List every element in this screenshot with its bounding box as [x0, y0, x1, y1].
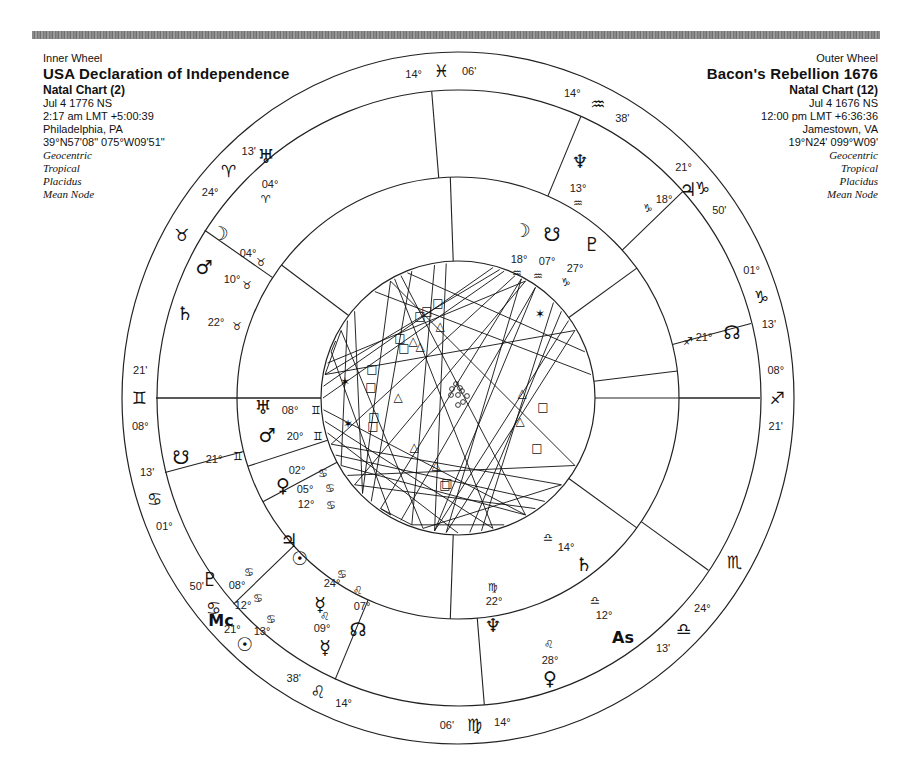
aspect-symbol-icon: ✶ — [340, 375, 350, 389]
planet-sign-icon: ♈ — [261, 193, 271, 206]
aspect-symbol-icon: □ — [414, 309, 425, 323]
aspect-line — [324, 410, 526, 515]
aspect-line — [355, 311, 363, 493]
aspect-line — [341, 331, 423, 529]
planet-degree: 12° — [235, 599, 252, 611]
aspect-symbol-icon: □ — [537, 400, 548, 414]
aspect-symbol-icon: △ — [393, 390, 403, 404]
planet-sign-icon: ♌ — [353, 584, 363, 597]
inner-planet-mars: ♂20°♊ — [258, 424, 322, 446]
house-cusp-line — [641, 522, 708, 571]
aspect-line — [325, 331, 341, 375]
planet-sign-icon: ♎ — [543, 531, 553, 544]
planet-icon: ♆ — [484, 614, 501, 636]
outer-planet-moon: ☽04°♉ — [211, 222, 265, 269]
zodiac-sign-icon: ♒ — [590, 94, 605, 114]
house-cusp-line — [622, 192, 682, 250]
aspect-line — [355, 281, 526, 485]
planet-degree: 07° — [354, 600, 371, 612]
outer-planet-saturn: ♄14°♎ — [543, 531, 592, 575]
planet-sign-icon: ♊ — [313, 430, 323, 443]
zodiac-sign-icon: ♑ — [754, 287, 769, 307]
planet-icon: ♅ — [257, 145, 274, 167]
cusp-degree: 08° — [132, 420, 149, 432]
inner-planet-sun: ☉12°♋ — [291, 498, 335, 569]
planet-degree: 09° — [314, 622, 331, 634]
planet-sign-icon: ♎ — [590, 594, 600, 607]
planet-icon: ♀ — [543, 667, 557, 689]
conjunction-icon — [456, 403, 461, 408]
aspect-symbol-icon: △ — [515, 414, 525, 428]
planet-icon: ♃ — [280, 529, 297, 551]
zodiac-sign-icon: ♍ — [467, 715, 482, 735]
outer-planet-mars: ♂10°♉ — [195, 256, 251, 292]
planet-icon: ♂ — [258, 424, 275, 446]
planet-sign-icon: ♋ — [325, 482, 335, 495]
zodiac-sign-icon: ♐ — [769, 388, 784, 408]
outer-planet-pluto: ♇08°♋ — [201, 566, 253, 591]
planet-icon: ☽ — [513, 219, 530, 241]
cusp-degree: 24° — [694, 602, 711, 614]
cusp-minute: 50' — [712, 204, 726, 216]
outer-planet-ascendant: As12°♎ — [590, 594, 634, 647]
cusp-degree: 14° — [564, 87, 581, 99]
aspect-symbol-icon: △ — [435, 319, 445, 333]
conjunction-icon — [461, 400, 466, 405]
aspect-line — [381, 509, 412, 525]
zodiac-sign-icon: ♈ — [221, 161, 236, 181]
inner-planet-south-node: ☋07°♒ — [533, 223, 560, 283]
conjunction-icon — [456, 393, 461, 398]
planet-sign-icon: ♋ — [337, 568, 347, 581]
planet-degree: 13° — [254, 625, 271, 637]
bi-wheel-chart: □□□□□□□□□□□□□△△△△△△△△✶✶✶ ♓14°06'♒14°38'♑… — [0, 0, 916, 771]
planet-sign-icon: ♋ — [253, 592, 263, 605]
house-cusp-line — [282, 265, 349, 316]
planet-sign-icon: ♊ — [233, 450, 243, 463]
aspect-symbol-icon: □ — [368, 410, 379, 424]
planet-icon: ☊ — [724, 321, 741, 343]
outer-planet-south-node: ☋21°♊ — [173, 446, 243, 468]
inner-house-cusps — [156, 177, 760, 619]
aspect-symbol-icon: □ — [365, 380, 376, 394]
aspect-symbol-icon: □ — [531, 441, 542, 455]
planet-degree: 18° — [656, 193, 673, 205]
planet-sign-icon: ♋ — [326, 499, 336, 512]
aspect-line — [331, 276, 515, 445]
zodiac-sign-icon: ♓ — [434, 61, 449, 81]
planet-icon: ♃ — [679, 178, 696, 200]
cusp-minute: 38' — [287, 672, 301, 684]
house-cusp-line — [450, 535, 453, 619]
inner-planet-pluto: ♇27°♑ — [561, 233, 600, 289]
cusp-minute: 06' — [440, 719, 454, 731]
planet-degree: 08° — [282, 404, 299, 416]
planet-degree: 20° — [287, 430, 304, 442]
cusp-degree: 14° — [335, 697, 352, 709]
planet-degree: 28° — [542, 654, 559, 666]
planet-icon: ☋ — [544, 223, 561, 245]
planet-sign-icon: ♉ — [242, 279, 252, 292]
cusp-minute: 21' — [133, 364, 147, 376]
planet-sign-icon: ♊ — [311, 404, 321, 417]
house-cusp-line — [594, 371, 677, 381]
planet-sign-icon: ♑ — [643, 202, 653, 215]
planet-degree: 22° — [486, 595, 503, 607]
aspect-symbol-icon: ✶ — [535, 307, 545, 321]
planet-degree: 14° — [558, 541, 575, 553]
planet-icon: ♇ — [583, 233, 600, 255]
planet-degree: 05° — [297, 483, 314, 495]
conjunction-icon — [465, 394, 470, 399]
zodiac-sign-icon: ♋ — [147, 489, 162, 509]
house-cusp-line — [450, 177, 453, 261]
planet-icon: ♂ — [195, 256, 212, 278]
planet-degree: 12° — [298, 498, 315, 510]
cusp-degree: 14° — [494, 716, 511, 728]
zodiac-sign-icon: ♏ — [727, 552, 742, 572]
cusp-minute: 38' — [615, 112, 629, 124]
cusp-degree: 01° — [156, 520, 173, 532]
aspect-symbol-icon: △ — [431, 458, 441, 472]
planet-icon: ♄ — [575, 553, 592, 575]
planet-sign-icon: ♑ — [561, 276, 571, 289]
house-cusp-line — [234, 546, 294, 604]
planet-degree: 21° — [696, 331, 713, 343]
planet-sign-icon: ♒ — [512, 267, 522, 280]
